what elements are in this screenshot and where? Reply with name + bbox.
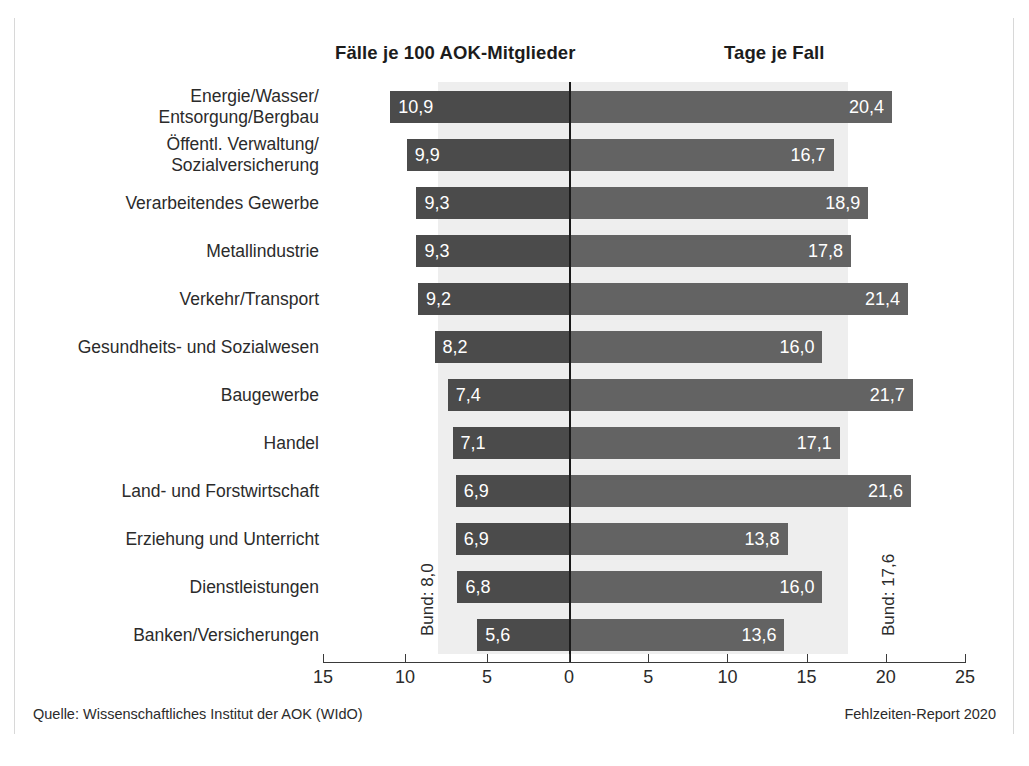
category-label: Energie/Wasser/Entsorgung/Bergbau [158,83,319,131]
category-label-line: Dienstleistungen [190,577,319,598]
reference-label-right: Bund: 17,6 [879,554,899,636]
category-label: Land- und Forstwirtschaft [122,467,319,515]
footer-report: Fehlzeiten-Report 2020 [844,706,996,722]
bar-row: Verarbeitendes Gewerbe9,318,9 [0,179,1029,227]
bar-value-right: 20,4 [569,91,884,123]
bar-value-right: 16,0 [569,571,814,603]
bar-value-right: 16,0 [569,331,814,363]
bar-row: Energie/Wasser/Entsorgung/Bergbau10,920,… [0,83,1029,131]
x-axis-line [323,662,965,663]
bar-value-left: 9,3 [424,187,449,219]
axis-tick [727,654,728,663]
bar-row: Metallindustrie9,317,8 [0,227,1029,275]
footer-source: Quelle: Wissenschaftliches Institut der … [33,706,363,722]
category-label: Verarbeitendes Gewerbe [125,179,319,227]
bar-row: Gesundheits- und Sozialwesen8,216,0 [0,323,1029,371]
bar-value-right: 17,8 [569,235,843,267]
category-label-line: Gesundheits- und Sozialwesen [78,337,319,358]
figure-footer: Quelle: Wissenschaftliches Institut der … [0,706,1029,736]
bar-value-left: 9,3 [424,235,449,267]
category-label-line: Land- und Forstwirtschaft [122,481,319,502]
bar-value-left: 5,6 [485,619,510,651]
axis-tick [323,654,324,663]
category-label: Verkehr/Transport [180,275,319,323]
category-label-line: Baugewerbe [221,385,319,406]
bar-value-left: 6,8 [465,571,490,603]
axis-tick-label: 10 [717,667,737,688]
axis-tick-label: 20 [876,667,896,688]
axis-tick [965,654,966,663]
axis-tick [405,654,406,663]
bar-row: Öffentl. Verwaltung/Sozialversicherung9,… [0,131,1029,179]
axis-tick [807,654,808,663]
column-header-right: Tage je Fall [724,42,825,64]
bar-value-right: 18,9 [569,187,860,219]
axis-tick-label: 25 [955,667,975,688]
bar-value-left: 7,4 [456,379,481,411]
category-label: Baugewerbe [221,371,319,419]
category-label: Gesundheits- und Sozialwesen [78,323,319,371]
category-label-line: Banken/Versicherungen [133,625,319,646]
bar-value-right: 21,4 [569,283,900,315]
bar-value-left: 6,9 [464,475,489,507]
bar-value-right: 21,7 [569,379,905,411]
chart-figure: Fälle je 100 AOK-Mitglieder Tage je Fall… [0,0,1029,766]
category-label: Handel [264,419,319,467]
category-label: Erziehung und Unterricht [125,515,319,563]
bar-value-left: 10,9 [398,91,433,123]
zero-axis-line [569,82,571,662]
axis-tick [487,654,488,663]
axis-tick-label: 15 [797,667,817,688]
category-label-line: Entsorgung/Bergbau [158,107,319,128]
bar-value-right: 21,6 [569,475,903,507]
category-label-line: Öffentl. Verwaltung/ [167,134,319,155]
bar-value-left: 8,2 [443,331,468,363]
bar-value-right: 16,7 [569,139,826,171]
axis-tick [886,654,887,663]
bar-row: Erziehung und Unterricht6,913,8 [0,515,1029,563]
category-label: Öffentl. Verwaltung/Sozialversicherung [167,131,319,179]
axis-tick-label: 15 [313,667,333,688]
bar-value-left: 9,9 [415,139,440,171]
bar-value-right: 17,1 [569,427,832,459]
reference-label-left: Bund: 8,0 [418,563,438,636]
axis-tick-label: 5 [643,667,653,688]
bar-row: Dienstleistungen6,816,0 [0,563,1029,611]
axis-tick [648,654,649,663]
category-label-line: Sozialversicherung [171,155,319,176]
category-label-line: Erziehung und Unterricht [125,529,319,550]
bar-value-left: 9,2 [426,283,451,315]
category-label-line: Metallindustrie [206,241,319,262]
axis-tick-label: 10 [395,667,415,688]
bar-row: Land- und Forstwirtschaft6,921,6 [0,467,1029,515]
bar-value-right: 13,8 [569,523,780,555]
x-axis: 151050510152025 [0,654,1029,704]
category-label: Banken/Versicherungen [133,611,319,659]
category-label: Dienstleistungen [190,563,319,611]
axis-tick-label: 0 [564,667,574,688]
bar-row: Handel7,117,1 [0,419,1029,467]
category-label: Metallindustrie [206,227,319,275]
bar-row: Verkehr/Transport9,221,4 [0,275,1029,323]
bar-value-left: 6,9 [464,523,489,555]
category-label-line: Energie/Wasser/ [190,86,319,107]
bar-row: Banken/Versicherungen5,613,6 [0,611,1029,659]
column-header-left: Fälle je 100 AOK-Mitglieder [335,42,576,64]
axis-tick [569,654,570,663]
category-label-line: Verarbeitendes Gewerbe [125,193,319,214]
bar-value-left: 7,1 [461,427,486,459]
category-label-line: Handel [264,433,319,454]
bar-row: Baugewerbe7,421,7 [0,371,1029,419]
category-label-line: Verkehr/Transport [180,289,319,310]
axis-tick-label: 5 [482,667,492,688]
plot-area: Energie/Wasser/Entsorgung/Bergbau10,920,… [0,82,1029,654]
bar-value-right: 13,6 [569,619,776,651]
